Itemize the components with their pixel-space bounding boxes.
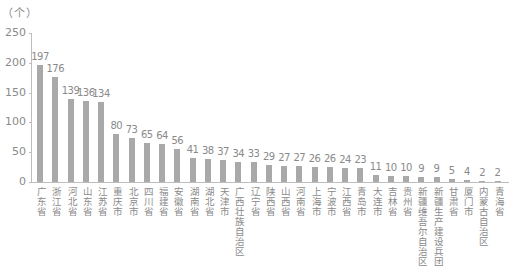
- value-label: 134: [86, 88, 116, 99]
- bar: [373, 175, 379, 182]
- bar: [68, 99, 74, 182]
- bar: [434, 177, 440, 182]
- y-tick-mark: [29, 33, 32, 34]
- y-tick-label: 100: [0, 115, 26, 128]
- bar: [205, 159, 211, 182]
- x-category-label: 广东省: [35, 187, 46, 217]
- bar: [449, 179, 455, 182]
- value-label: 2: [483, 167, 513, 178]
- x-category-label: 吉林省: [386, 187, 397, 217]
- x-axis-line: [31, 182, 509, 183]
- x-category-label: 北京市: [127, 187, 138, 217]
- value-label: 176: [40, 63, 70, 74]
- x-category-label: 厦门市: [462, 187, 473, 217]
- y-tick-label: 250: [0, 26, 26, 39]
- bar: [235, 162, 241, 182]
- x-category-label: 安徽省: [172, 187, 183, 217]
- x-category-label: 贵州省: [401, 187, 412, 217]
- bar: [129, 138, 135, 182]
- y-tick-label: 0: [0, 175, 26, 188]
- x-category-label: 山西省: [279, 187, 290, 217]
- y-tick-label: 200: [0, 56, 26, 69]
- y-tick-label: 50: [0, 145, 26, 158]
- bar: [281, 166, 287, 182]
- y-tick-mark: [29, 182, 32, 183]
- x-category-label: 重庆市: [111, 187, 122, 217]
- bar: [495, 181, 501, 182]
- x-category-label: 湖南省: [188, 187, 199, 217]
- bar: [251, 162, 257, 182]
- x-category-label: 天津市: [218, 187, 229, 217]
- x-category-label: 上海市: [310, 187, 321, 217]
- bar: [98, 102, 104, 182]
- bar: [83, 101, 89, 182]
- y-tick-mark: [29, 122, 32, 123]
- bar: [312, 167, 318, 182]
- x-category-label: 青岛市: [355, 187, 366, 217]
- bar: [159, 144, 165, 182]
- bar: [220, 160, 226, 182]
- x-category-label: 新疆生产建设兵团: [432, 187, 443, 267]
- bar: [464, 180, 470, 182]
- y-tick-mark: [29, 93, 32, 94]
- x-category-label: 福建省: [157, 187, 168, 217]
- x-category-label: 新疆维吾尔自治区: [416, 187, 427, 267]
- y-tick-label: 150: [0, 86, 26, 99]
- y-tick-mark: [29, 63, 32, 64]
- x-category-label: 陕西省: [264, 187, 275, 217]
- bar: [388, 176, 394, 182]
- x-category-label: 江苏省: [96, 187, 107, 217]
- bar: [296, 166, 302, 182]
- x-category-label: 内蒙古自治区: [477, 187, 488, 247]
- x-category-label: 广西壮族自治区: [233, 187, 244, 257]
- x-category-label: 浙江省: [50, 187, 61, 217]
- x-category-label: 河北省: [66, 187, 77, 217]
- bar: [266, 165, 272, 182]
- bar: [403, 176, 409, 182]
- bar: [113, 134, 119, 182]
- value-label: 197: [25, 51, 55, 62]
- x-category-label: 大连市: [371, 187, 382, 217]
- x-category-label: 辽宁省: [249, 187, 260, 217]
- x-category-label: 山东省: [81, 187, 92, 217]
- x-category-label: 宁波市: [325, 187, 336, 217]
- x-category-label: 青海省: [493, 187, 504, 217]
- y-axis-unit-label: （个）: [2, 4, 38, 20]
- x-category-label: 湖北省: [203, 187, 214, 217]
- bar: [37, 65, 43, 182]
- x-category-label: 甘肃省: [447, 187, 458, 217]
- y-tick-mark: [29, 152, 32, 153]
- bar: [190, 158, 196, 182]
- x-category-label: 四川省: [142, 187, 153, 217]
- bar: [418, 177, 424, 182]
- bar: [479, 181, 485, 182]
- x-category-label: 河南省: [294, 187, 305, 217]
- x-category-label: 江西省: [340, 187, 351, 217]
- bar: [342, 168, 348, 182]
- bar: [327, 167, 333, 182]
- bar: [144, 143, 150, 182]
